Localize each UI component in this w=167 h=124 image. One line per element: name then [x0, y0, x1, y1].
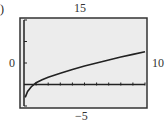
- plot-frame: [20, 18, 147, 108]
- graph-window: [0, 0, 167, 124]
